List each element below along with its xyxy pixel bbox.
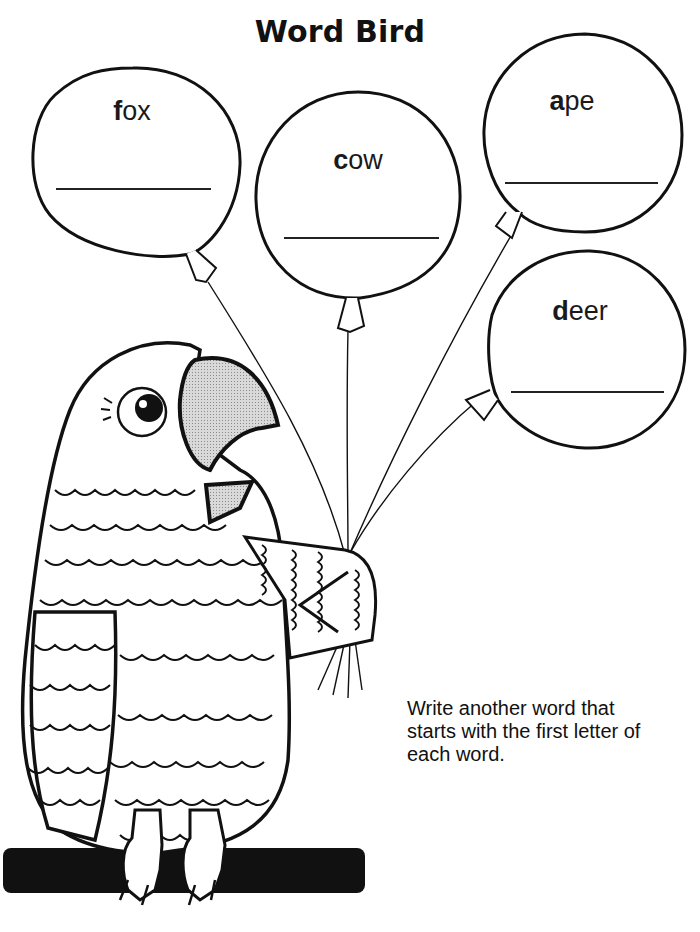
balloon-word-deer: deer bbox=[500, 296, 660, 327]
first-letter: f bbox=[113, 96, 122, 126]
balloon-deer bbox=[466, 251, 685, 448]
rest-of-word: pe bbox=[564, 86, 594, 116]
answer-line-ape[interactable] bbox=[505, 182, 658, 184]
answer-line-fox[interactable] bbox=[56, 188, 211, 190]
rest-of-word: ow bbox=[348, 145, 383, 175]
parrot-illustration bbox=[0, 0, 700, 932]
balloon-word-cow: cow bbox=[278, 145, 438, 176]
first-letter: c bbox=[333, 145, 348, 175]
first-letter: d bbox=[552, 296, 569, 326]
balloon-cow bbox=[256, 92, 460, 332]
balloon-word-ape: ape bbox=[492, 86, 652, 117]
rest-of-word: ox bbox=[122, 96, 151, 126]
first-letter: a bbox=[549, 86, 564, 116]
instructions-text: Write another word that starts with the … bbox=[407, 697, 647, 766]
answer-line-cow[interactable] bbox=[284, 237, 439, 239]
balloon-word-fox: fox bbox=[52, 96, 212, 127]
balloon-ape bbox=[484, 34, 682, 238]
answer-line-deer[interactable] bbox=[511, 391, 664, 393]
rest-of-word: eer bbox=[569, 296, 608, 326]
parrot-upper-beak bbox=[180, 358, 278, 470]
